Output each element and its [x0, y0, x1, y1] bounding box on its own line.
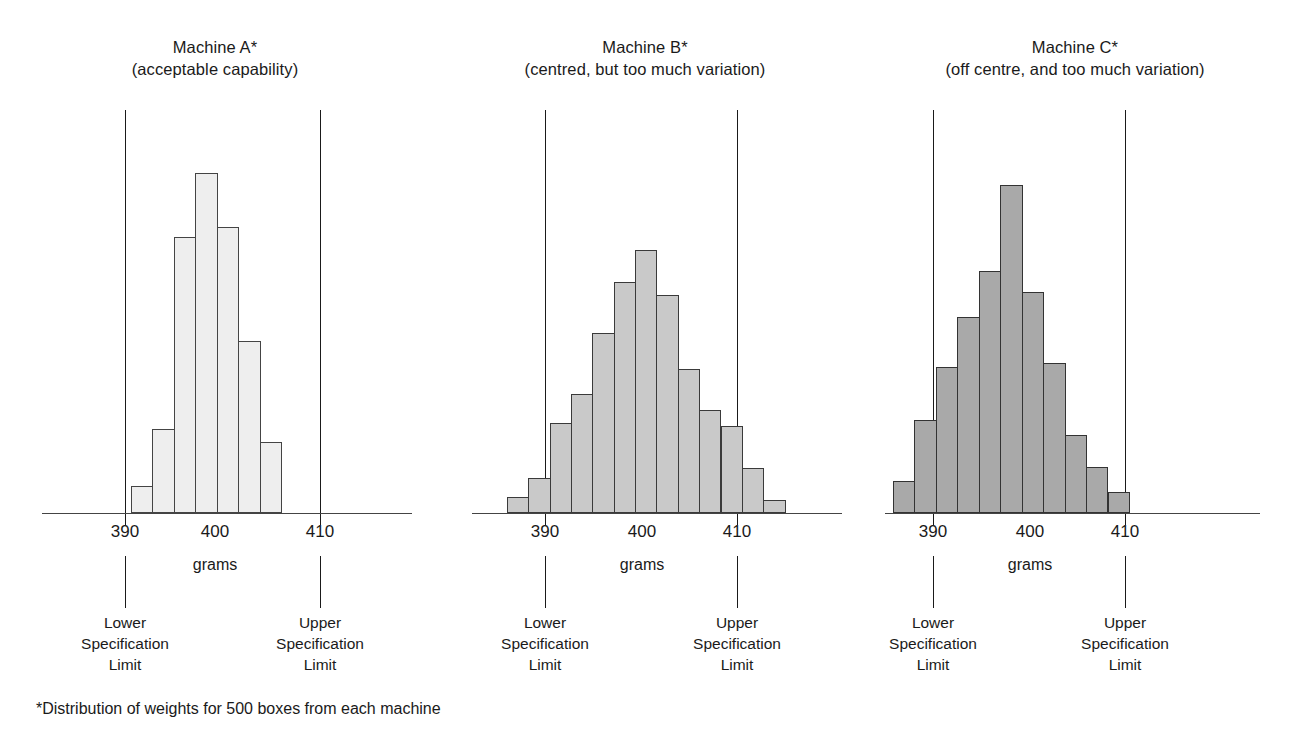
x-tick-label: 390 [111, 522, 139, 542]
histogram-bar [550, 423, 572, 513]
lower-spec-limit-line-lower [545, 556, 546, 608]
histogram-bar [152, 429, 174, 513]
histogram-bar [507, 497, 529, 513]
upper-specification-limit-caption-line: Limit [276, 654, 364, 675]
lower-specification-limit-caption: LowerSpecificationLimit [889, 612, 977, 675]
histogram-bar [1022, 292, 1044, 513]
lower-specification-limit-caption-line: Lower [81, 612, 169, 633]
upper-specification-limit-caption-line: Upper [693, 612, 781, 633]
x-tick-label: 410 [306, 522, 334, 542]
histogram-bar [1108, 492, 1130, 513]
x-tick-label: 400 [201, 522, 229, 542]
histogram-bar [699, 410, 721, 513]
x-axis-line [42, 513, 412, 514]
histogram-bar [635, 250, 657, 513]
lower-specification-limit-caption-line: Limit [501, 654, 589, 675]
histogram-bar [936, 367, 958, 513]
upper-specification-limit-caption-line: Specification [276, 633, 364, 654]
upper-specification-limit-caption-line: Upper [276, 612, 364, 633]
histogram-bars [0, 0, 430, 513]
lower-specification-limit-caption: LowerSpecificationLimit [81, 612, 169, 675]
lower-specification-limit-caption-line: Lower [501, 612, 589, 633]
x-axis-unit-label: grams [1008, 556, 1052, 574]
lower-specification-limit-caption-line: Limit [81, 654, 169, 675]
histogram-bar [678, 369, 700, 513]
histogram-bar [914, 420, 936, 513]
histogram-bar [1065, 435, 1087, 513]
lower-specification-limit-caption-line: Lower [889, 612, 977, 633]
histogram-bar [763, 500, 785, 513]
chart-panel-machine-a: Machine A*(acceptable capability)3904004… [0, 0, 430, 690]
histogram-bar [217, 227, 239, 513]
x-axis-line [472, 513, 842, 514]
upper-specification-limit-caption-line: Specification [1081, 633, 1169, 654]
histogram-bar [260, 442, 282, 513]
histogram-bar [979, 271, 1001, 513]
upper-spec-limit-line-lower [320, 556, 321, 608]
upper-spec-limit-line-lower [1125, 556, 1126, 608]
figure-canvas: Machine A*(acceptable capability)3904004… [0, 0, 1289, 748]
histogram-bar [893, 481, 915, 513]
lower-specification-limit-caption-line: Specification [81, 633, 169, 654]
histogram-bar [528, 478, 550, 513]
histogram-bar [1086, 467, 1108, 513]
histogram-bar [131, 486, 153, 513]
histogram-bar [1043, 363, 1065, 513]
x-tick-label: 400 [1016, 522, 1044, 542]
chart-panel-machine-b: Machine B*(centred, but too much variati… [430, 0, 860, 690]
lower-specification-limit-caption-line: Limit [889, 654, 977, 675]
histogram-bar [195, 173, 217, 513]
x-tick-label: 400 [628, 522, 656, 542]
x-tick-label: 410 [1111, 522, 1139, 542]
upper-specification-limit-caption-line: Specification [693, 633, 781, 654]
histogram-bar [656, 295, 678, 513]
upper-spec-limit-line-lower [737, 556, 738, 608]
histogram-bar [238, 341, 260, 513]
figure-footnote: *Distribution of weights for 500 boxes f… [36, 700, 441, 718]
lower-spec-limit-line-lower [933, 556, 934, 608]
histogram-bar [1000, 185, 1022, 513]
upper-specification-limit-caption: UpperSpecificationLimit [1081, 612, 1169, 675]
x-axis-unit-label: grams [620, 556, 664, 574]
histogram-bar [742, 468, 764, 513]
histogram-bar [721, 426, 743, 513]
x-tick-label: 410 [723, 522, 751, 542]
histogram-bar [571, 394, 593, 513]
upper-specification-limit-caption: UpperSpecificationLimit [693, 612, 781, 675]
histogram-bars [860, 0, 1289, 513]
x-axis-unit-label: grams [193, 556, 237, 574]
lower-specification-limit-caption: LowerSpecificationLimit [501, 612, 589, 675]
lower-specification-limit-caption-line: Specification [501, 633, 589, 654]
histogram-bar [957, 317, 979, 513]
histogram-bar [592, 333, 614, 513]
upper-specification-limit-caption-line: Limit [1081, 654, 1169, 675]
histogram-bar [174, 237, 196, 513]
histogram-bar [614, 282, 636, 513]
lower-specification-limit-caption-line: Specification [889, 633, 977, 654]
histogram-bars [430, 0, 860, 513]
x-tick-label: 390 [531, 522, 559, 542]
lower-spec-limit-line-lower [125, 556, 126, 608]
upper-specification-limit-caption-line: Limit [693, 654, 781, 675]
upper-specification-limit-caption-line: Upper [1081, 612, 1169, 633]
x-axis-line [885, 513, 1260, 514]
x-tick-label: 390 [919, 522, 947, 542]
upper-specification-limit-caption: UpperSpecificationLimit [276, 612, 364, 675]
chart-panel-machine-c: Machine C*(off centre, and too much vari… [860, 0, 1289, 690]
